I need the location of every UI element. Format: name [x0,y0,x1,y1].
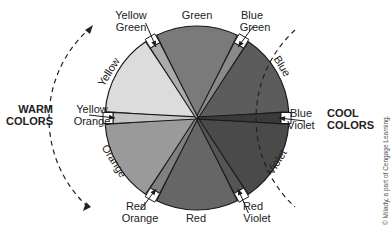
warm-arc-bottom-arrowhead [83,202,91,211]
cool-colors-label-line1: COOL [327,107,359,119]
color-wheel-svg: Green Yellow Green Blue Green Blue Viole… [0,0,392,230]
label-blue-violet-line2: Violet [287,119,314,131]
label-yellow-green-line1: Yellow [115,9,146,21]
label-red-orange-line2: Orange [122,212,159,224]
label-yellow-orange-line2: Orange [74,115,111,127]
label-green: Green [182,9,213,21]
color-wheel-diagram: Green Yellow Green Blue Green Blue Viole… [0,0,392,230]
label-red-violet-line2: Violet [243,212,270,224]
label-blue-green-line2: Green [240,21,271,33]
warm-arc-top-arrowhead [85,25,93,34]
label-blue-violet-line1: Blue [290,107,312,119]
copyright-notice: © Milady, a part of Cengage Learning. [382,115,390,225]
label-red: Red [186,212,206,224]
label-red-violet-line1: Red [243,200,263,212]
label-blue-green-line1: Blue [241,9,263,21]
label-yellow-orange-line1: Yellow [76,103,107,115]
label-yellow-green-line2: Green [116,21,147,33]
label-red-orange-line1: Red [126,200,146,212]
warm-colors-label-line2: COLORS [6,115,53,127]
cool-colors-label-line2: COLORS [327,119,374,131]
warm-colors-label-line1: WARM [18,103,53,115]
